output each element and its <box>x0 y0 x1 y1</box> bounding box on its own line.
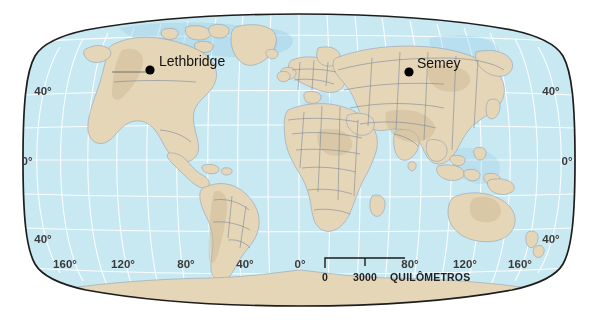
lat-label-left-0: 0° <box>22 155 33 167</box>
longitude-labels: 160° 120° 80° 40° 0° 80° 120° 160° <box>53 258 532 270</box>
lat-label-right-40n: 40° <box>542 85 560 97</box>
lon-label-160e: 160° <box>508 258 532 270</box>
lethbridge-dot[interactable] <box>145 65 154 74</box>
semey-dot[interactable] <box>404 67 413 76</box>
label-layer: 40° 0° 40° 40° 0° 40° 160° 120° 80° 40° … <box>0 0 598 326</box>
lon-label-80w: 80° <box>177 258 195 270</box>
lat-label-right-40s: 40° <box>542 233 560 245</box>
latitude-labels-left: 40° 0° 40° <box>22 85 53 245</box>
scale-units-label: QUILÔMETROS <box>390 271 470 283</box>
lat-label-left-40s: 40° <box>34 233 52 245</box>
lon-label-40w: 40° <box>236 258 254 270</box>
scale-label-3000: 3000 <box>353 271 377 283</box>
lon-label-120e: 120° <box>453 258 477 270</box>
lethbridge-label: Lethbridge <box>159 53 225 69</box>
lat-label-left-40n: 40° <box>34 85 52 97</box>
city-marker-semey[interactable]: Semey <box>404 55 460 77</box>
semey-label: Semey <box>417 55 461 71</box>
scale-label-zero: 0 <box>322 271 328 283</box>
lon-label-120w: 120° <box>111 258 135 270</box>
city-marker-lethbridge[interactable]: Lethbridge <box>112 53 225 75</box>
latitude-labels-right: 40° 0° 40° <box>542 85 573 245</box>
lon-label-160w: 160° <box>53 258 77 270</box>
scale-bar: 0 3000 QUILÔMETROS <box>322 258 470 283</box>
lon-label-80e: 80° <box>401 258 419 270</box>
lon-label-0: 0° <box>295 258 306 270</box>
world-map-figure: 40° 0° 40° 40° 0° 40° 160° 120° 80° 40° … <box>0 0 598 326</box>
lat-label-right-0: 0° <box>562 155 573 167</box>
